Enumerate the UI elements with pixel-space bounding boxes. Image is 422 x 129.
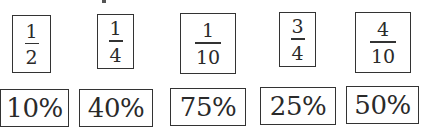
fraction-card-3[interactable]: 1 10 xyxy=(180,13,236,74)
percent-label: 40% xyxy=(88,93,144,123)
fraction-denominator: 4 xyxy=(109,45,121,65)
fraction-bar xyxy=(109,40,123,42)
fraction-denominator: 4 xyxy=(291,43,303,63)
fraction-card-2[interactable]: 1 4 xyxy=(97,14,134,69)
percent-card-1[interactable]: 10% xyxy=(0,89,69,127)
percent-label: 75% xyxy=(180,92,236,122)
fraction-denominator: 10 xyxy=(196,47,220,67)
percent-card-4[interactable]: 25% xyxy=(260,87,336,125)
fraction-numerator: 1 xyxy=(202,20,214,40)
percent-label: 10% xyxy=(6,93,62,123)
fraction-numerator: 1 xyxy=(25,21,37,41)
percent-card-5[interactable]: 50% xyxy=(346,86,419,124)
fraction-denominator: 10 xyxy=(371,46,395,66)
fraction-numerator: 3 xyxy=(291,16,303,36)
fraction-bar xyxy=(291,38,305,40)
fraction-bar xyxy=(195,42,221,44)
percent-label: 50% xyxy=(354,90,410,120)
fraction-card-1[interactable]: 1 2 xyxy=(12,15,51,73)
percent-card-2[interactable]: 40% xyxy=(79,89,153,127)
percent-card-3[interactable]: 75% xyxy=(170,88,246,126)
fraction-card-5[interactable]: 4 10 xyxy=(355,12,411,73)
fraction-denominator: 2 xyxy=(25,47,37,67)
fraction-bar xyxy=(370,41,396,43)
fraction-numerator: 1 xyxy=(109,18,121,38)
fraction-bar xyxy=(25,43,39,45)
fraction-numerator: 4 xyxy=(377,19,389,39)
percent-label: 25% xyxy=(270,91,326,121)
fraction-card-4[interactable]: 3 4 xyxy=(279,12,316,67)
cropped-text-fragment xyxy=(102,0,106,3)
